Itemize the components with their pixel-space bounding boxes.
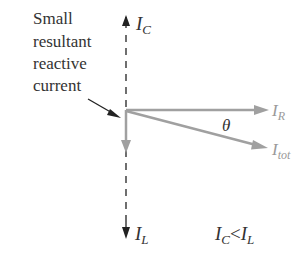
phase-angle-label: θ <box>222 116 230 135</box>
resistive-current-label: IR <box>271 101 286 123</box>
arrow-up-icon <box>122 15 130 26</box>
inductive-current-label: IL <box>134 223 149 247</box>
arrow-down-icon <box>122 227 130 239</box>
annotation-line-1: Small <box>33 9 73 28</box>
annotation-line-2: resultant <box>33 32 92 51</box>
annotation-pointer-arrow <box>88 99 121 118</box>
annotation-line-3: reactive <box>33 54 87 73</box>
annotation-text: Small resultant reactive current <box>33 9 92 95</box>
condition-label: IC<IL <box>214 223 254 247</box>
annotation-line-4: current <box>33 76 81 95</box>
total-current-vector <box>126 111 268 150</box>
capacitive-current-label: IC <box>135 13 151 37</box>
phasor-diagram: Small resultant reactive current IC IL I… <box>0 0 302 267</box>
resultant-reactive-vector <box>121 110 131 153</box>
resistive-current-vector <box>126 105 269 115</box>
total-current-label: Itot <box>271 140 291 162</box>
